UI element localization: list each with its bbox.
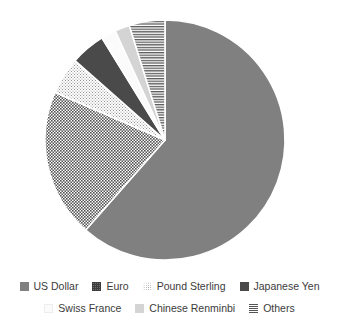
legend-label: Chinese Renminbi	[149, 302, 235, 314]
pie-slice-group: US DollarEuroPound SterlingJapanese YenS…	[45, 20, 285, 260]
legend-row-2: Swiss FranceChinese RenminbiOthers	[37, 298, 301, 318]
legend-item-swiss-france[interactable]: Swiss France	[44, 302, 121, 314]
legend-item-japanese-yen[interactable]: Japanese Yen	[240, 280, 320, 292]
legend-label: Others	[263, 302, 295, 314]
pie-chart-plot-area: US DollarEuroPound SterlingJapanese YenS…	[0, 0, 339, 268]
legend-swatch-icon	[249, 304, 258, 313]
legend-item-others[interactable]: Others	[249, 302, 295, 314]
legend-item-pound-sterling[interactable]: Pound Sterling	[143, 280, 226, 292]
legend-swatch-icon	[20, 282, 29, 291]
legend-row-1: US DollarEuroPound SterlingJapanese Yen	[13, 276, 327, 296]
legend-swatch-icon	[92, 282, 101, 291]
legend-item-us-dollar[interactable]: US Dollar	[20, 280, 79, 292]
legend-label: Swiss France	[58, 302, 121, 314]
legend-label: Pound Sterling	[157, 280, 226, 292]
legend-label: US Dollar	[34, 280, 79, 292]
legend-label: Euro	[106, 280, 128, 292]
legend-item-chinese-renminbi[interactable]: Chinese Renminbi	[135, 302, 235, 314]
legend-label: Japanese Yen	[254, 280, 320, 292]
pie-chart-figure: US DollarEuroPound SterlingJapanese YenS…	[0, 0, 339, 330]
legend-item-euro[interactable]: Euro	[92, 280, 128, 292]
legend-swatch-icon	[240, 282, 249, 291]
pie-chart-svg: US DollarEuroPound SterlingJapanese YenS…	[0, 0, 339, 268]
legend-swatch-icon	[135, 304, 144, 313]
chart-legend: US DollarEuroPound SterlingJapanese YenS…	[0, 268, 339, 330]
legend-swatch-icon	[44, 304, 53, 313]
legend-swatch-icon	[143, 282, 152, 291]
